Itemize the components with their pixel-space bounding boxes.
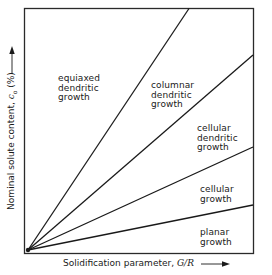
label-line: growth [58, 93, 100, 103]
label-line: growth [200, 238, 232, 248]
x-axis-symbol: G/R [177, 258, 194, 268]
region-label-columnar-dendritic: columnar dendritic growth [151, 81, 194, 110]
region-label-cellular-dendritic: cellular dendritic growth [197, 124, 238, 153]
y-axis-label-text: Nominal solute content, [6, 99, 16, 210]
y-axis-label: Nominal solute content, co (%) [6, 72, 18, 210]
label-line: growth [200, 195, 234, 205]
x-axis-arrow-icon [222, 261, 230, 266]
origin-point [26, 248, 30, 252]
y-axis-symbol: c [6, 94, 16, 99]
y-axis-subscript: o [11, 91, 18, 95]
x-axis-label: Solidification parameter, G/R [63, 258, 194, 268]
x-axis-label-text: Solidification parameter, [63, 258, 177, 268]
region-label-cellular: cellular growth [200, 185, 234, 204]
region-label-planar: planar growth [200, 228, 232, 247]
region-label-equiaxed-dendritic: equiaxed dendritic growth [58, 74, 100, 103]
label-line: growth [197, 143, 238, 153]
y-axis-unit: (%) [6, 72, 16, 90]
y-axis-arrow-icon [9, 46, 14, 54]
label-line: growth [151, 100, 194, 110]
